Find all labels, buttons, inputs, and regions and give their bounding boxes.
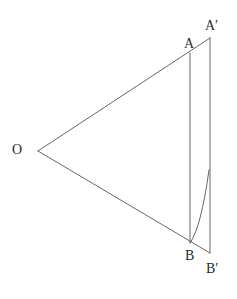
point-label-o: O bbox=[12, 143, 22, 157]
point-label-a-prime: A′ bbox=[205, 19, 218, 33]
geometry-figure: O A A′ B B′ bbox=[0, 0, 237, 299]
point-label-a: A bbox=[184, 37, 194, 51]
segment-ray-lower bbox=[38, 151, 210, 253]
point-label-b-prime: B′ bbox=[206, 262, 218, 276]
segment-ray-upper bbox=[38, 38, 210, 151]
curve-arc-B-to-ApBp bbox=[190, 170, 209, 243]
point-label-b: B bbox=[185, 249, 194, 263]
figure-canvas bbox=[0, 0, 237, 299]
